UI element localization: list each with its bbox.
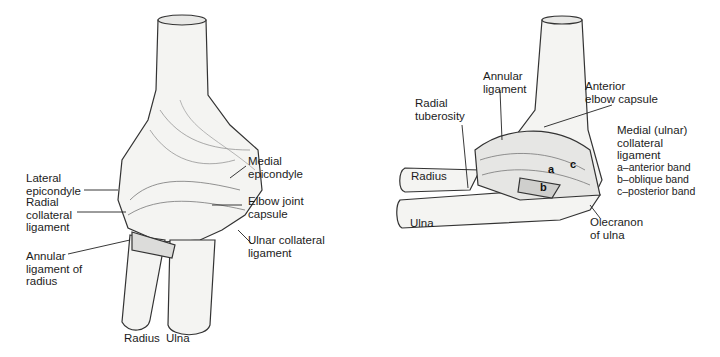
posterior-elbow-drawing: [118, 15, 262, 335]
label-ulnar-collateral-ligament: Ulnar collateral ligament: [248, 234, 325, 259]
label-band-a: a–anterior band: [617, 161, 691, 173]
label-annular-ligament: Annular ligament: [483, 70, 526, 95]
band-marker-c: c: [570, 158, 576, 170]
label-medial-epicondyle: Medial epicondyle: [248, 155, 303, 180]
label-radial-collateral-ligament: Radial collateral ligament: [26, 196, 72, 234]
label-annular-ligament-of-radius: Annular ligament of radius: [26, 250, 82, 288]
label-ulna-bottom: Ulna: [166, 332, 190, 345]
label-elbow-joint-capsule: Elbow joint capsule: [248, 195, 304, 220]
label-ulna-side: Ulna: [410, 217, 434, 230]
label-lateral-epicondyle: Lateral epicondyle: [26, 172, 81, 197]
label-band-b: b–oblique band: [617, 173, 689, 185]
label-radial-tuberosity: Radial tuberosity: [415, 97, 465, 122]
label-radius-bottom: Radius: [124, 332, 160, 345]
band-marker-a: a: [548, 163, 554, 175]
anatomy-illustration: [0, 0, 720, 357]
label-band-c: c–posterior band: [617, 185, 695, 197]
band-marker-b: b: [540, 181, 547, 193]
label-olecranon-of-ulna: Olecranon of ulna: [590, 216, 643, 241]
label-medial-ulnar-collateral-ligament: Medial (ulnar) collateral ligament: [617, 124, 687, 162]
medial-elbow-drawing: [397, 16, 602, 228]
label-anterior-elbow-capsule: Anterior elbow capsule: [585, 80, 658, 105]
label-radius-side: Radius: [411, 170, 447, 183]
